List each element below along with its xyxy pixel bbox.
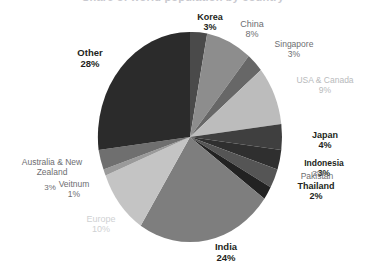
label-thailand-value: 2% [286,191,346,201]
label-usa-canada: USA & Canada 9% [288,76,362,95]
pie-svg [97,31,283,243]
label-singapore: Singapore 3% [263,40,325,59]
label-australia-new-zealand-value: 3% [40,184,60,193]
label-japan-name: Japan [300,130,350,140]
label-other: Other 28% [62,48,118,69]
label-japan: Japan 4% [300,130,350,150]
pie-chart-screenshot: Share of world population by country [0,0,366,278]
label-thailand: Thailand 2% [286,181,346,201]
label-india-value: 24% [202,253,250,264]
pie-slices [98,32,282,242]
label-europe: Europe 10% [75,214,127,234]
label-australia-new-zealand-value-wrap: 3% [40,184,60,193]
label-china-name: China [228,19,276,29]
label-europe-value: 10% [75,224,127,234]
label-thailand-name: Thailand [286,181,346,191]
label-india: India 24% [202,242,250,263]
clipped-chart-title: Share of world population by country [0,0,366,5]
label-singapore-value: 3% [263,50,325,60]
label-other-value: 28% [62,59,118,70]
label-japan-value: 4% [300,140,350,150]
label-australia-new-zealand: Australia & New Zealand [8,158,96,177]
label-australia-new-zealand-name-line2: Zealand [8,168,96,178]
label-pakistan-value-overlap: 3% [308,170,328,179]
pie-chart-graphic [97,31,283,243]
label-china-value: 8% [228,29,276,39]
label-usa-canada-value: 9% [288,86,362,96]
label-pakistan-value: 3% [308,170,328,179]
label-china: China 8% [228,19,276,39]
label-europe-name: Europe [75,214,127,224]
